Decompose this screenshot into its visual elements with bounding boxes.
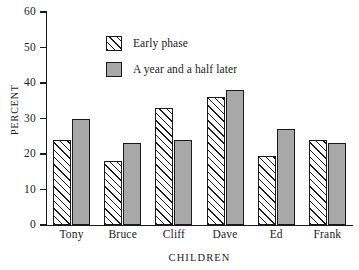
x-axis-category-label: Bruce xyxy=(97,228,148,241)
bar xyxy=(277,129,295,225)
x-axis-category-label: Frank xyxy=(302,228,353,241)
x-axis-category-label: Cliff xyxy=(148,228,199,241)
bar xyxy=(72,119,90,226)
gray-square-icon xyxy=(106,62,122,77)
y-axis-tick-label: 30 xyxy=(14,113,36,125)
bar xyxy=(328,143,346,225)
x-axis-category-label: Tony xyxy=(46,228,97,241)
bar xyxy=(309,140,327,225)
y-axis-tick-label: 40 xyxy=(14,77,36,89)
bar-chart: PERCENT 0102030405060 TonyBruceCliffDave… xyxy=(0,0,359,270)
y-axis-tick-label: 50 xyxy=(14,42,36,54)
y-axis-tick-label: 10 xyxy=(14,184,36,196)
bar xyxy=(207,97,225,225)
x-axis-category-label: Dave xyxy=(200,228,251,241)
legend-item: Early phase xyxy=(106,30,237,56)
bar xyxy=(123,143,141,225)
hatched-square-icon xyxy=(106,36,122,51)
bar xyxy=(226,90,244,225)
bar xyxy=(174,140,192,225)
legend-item: A year and a half later xyxy=(106,56,237,82)
y-axis-tick-label: 20 xyxy=(14,148,36,160)
y-axis-tick-label: 0 xyxy=(14,219,36,231)
bar xyxy=(104,161,122,225)
chart-legend: Early phase A year and a half later xyxy=(106,30,237,82)
bar xyxy=(155,108,173,225)
x-axis-category-label: Ed xyxy=(251,228,302,241)
bar xyxy=(53,140,71,225)
bar xyxy=(258,156,276,225)
y-axis-tick-label: 60 xyxy=(14,6,36,18)
x-axis-title: CHILDREN xyxy=(46,252,353,263)
legend-item-label: Early phase xyxy=(133,37,188,49)
legend-item-label: A year and a half later xyxy=(133,63,237,75)
